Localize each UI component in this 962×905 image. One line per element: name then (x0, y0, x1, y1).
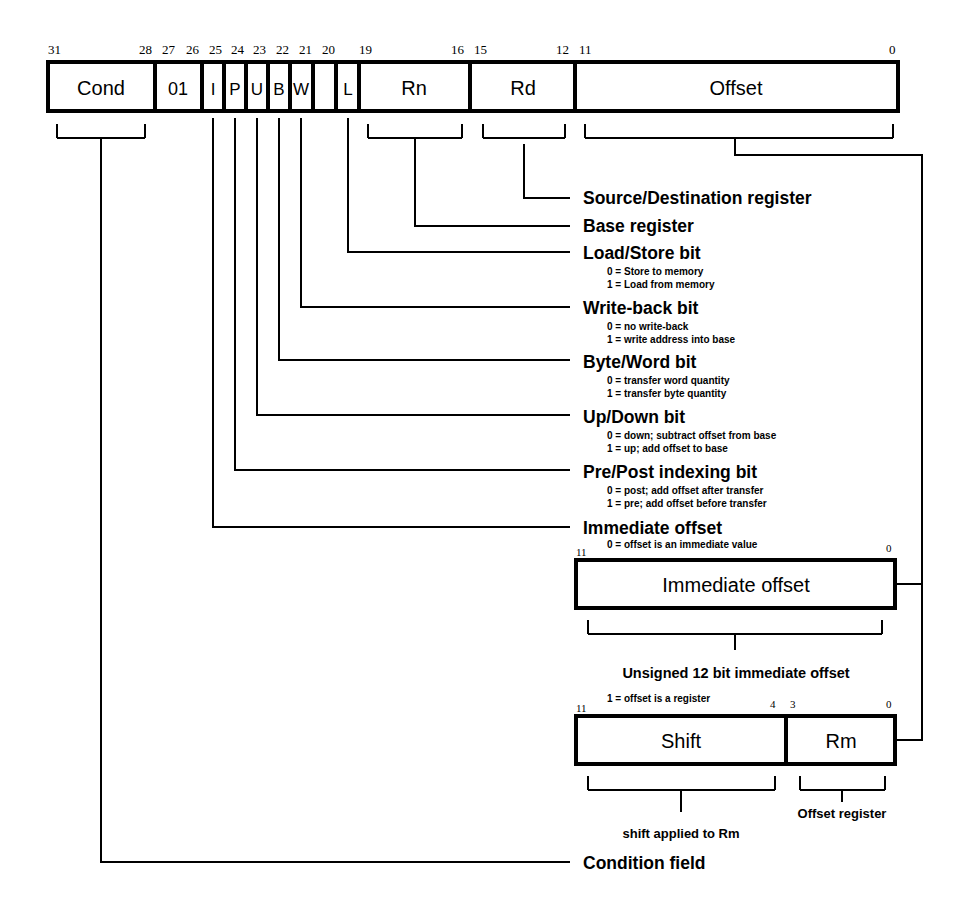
register-box-field-shift: Shift (661, 730, 701, 752)
bit-label-24: 24 (231, 42, 245, 57)
bit-label-25: 25 (209, 42, 222, 57)
immediate-box-caption: Unsigned 12 bit immediate offset (622, 665, 849, 681)
bit-label-19: 19 (359, 42, 372, 57)
annotation-write-back-bit-line-0: 0 = no write-back (607, 321, 689, 332)
field-l: L (343, 80, 352, 99)
annotation-pre-post-indexing-bit-title: Pre/Post indexing bit (583, 462, 757, 482)
bit-label-16: 16 (451, 42, 465, 57)
bit-label-23: 23 (253, 42, 266, 57)
annotation-up-down-bit-line-1: 1 = up; add offset to base (607, 443, 728, 454)
annotation-byte-word-bit-line-1: 1 = transfer byte quantity (607, 388, 727, 399)
annotation-pre-post-indexing-bit-line-0: 0 = post; add offset after transfer (607, 485, 764, 496)
field-u: U (251, 80, 263, 99)
immediate-box-bit-lo: 0 (886, 542, 892, 554)
field-offset: Offset (710, 77, 763, 99)
field-b: B (273, 80, 284, 99)
bit-label-11: 11 (579, 42, 592, 57)
field-w: W (293, 80, 309, 99)
condition-field-label: Condition field (583, 853, 705, 873)
register-box-note: 1 = offset is a register (607, 693, 710, 704)
register-box-bit-mid-lo: 3 (790, 698, 796, 710)
shift-caption: shift applied to Rm (623, 826, 740, 841)
annotation-immediate-offset-title: Immediate offset (583, 518, 722, 538)
register-box-bit-lo: 0 (886, 698, 892, 710)
bit-label-31: 31 (48, 42, 61, 57)
annotation-immediate-offset-line-0: 0 = offset is an immediate value (607, 539, 758, 550)
bit-label-12: 12 (556, 42, 569, 57)
annotation-write-back-bit-line-1: 1 = write address into base (607, 334, 736, 345)
annotation-load-store-bit-title: Load/Store bit (583, 243, 701, 263)
immediate-box-field-name: Immediate offset (662, 574, 810, 596)
bit-label-15: 15 (474, 42, 487, 57)
bit-label-21: 21 (299, 42, 312, 57)
annotation-load-store-bit-line-1: 1 = Load from memory (607, 279, 715, 290)
field-rd: Rd (510, 77, 536, 99)
annotation-source-destination-register-title: Source/Destination register (583, 188, 812, 208)
rm-caption: Offset register (798, 806, 887, 821)
bit-label-22: 22 (276, 42, 289, 57)
bit-label-28: 28 (139, 42, 152, 57)
annotation-pre-post-indexing-bit-line-1: 1 = pre; add offset before transfer (607, 498, 767, 509)
bit-label-26: 26 (186, 42, 200, 57)
register-box-bit-mid-hi: 4 (770, 698, 776, 710)
register-box-bit-hi: 11 (576, 702, 587, 714)
annotation-base-register-title: Base register (583, 216, 694, 236)
annotation-byte-word-bit-line-0: 0 = transfer word quantity (607, 375, 730, 386)
annotation-write-back-bit-title: Write-back bit (583, 298, 699, 318)
bit-label-20: 20 (322, 42, 335, 57)
immediate-box-bit-hi: 11 (576, 546, 587, 558)
bit-label-27: 27 (162, 42, 176, 57)
register-box-field-rm: Rm (825, 730, 856, 752)
field-01: 01 (168, 79, 188, 99)
diagram-text-layer: 31 28 27 26 25 24 23 22 21 20 19 16 15 1… (0, 0, 962, 905)
field-i: I (211, 80, 216, 99)
arm-instruction-format-diagram: 31 28 27 26 25 24 23 22 21 20 19 16 15 1… (0, 0, 962, 905)
field-cond: Cond (77, 77, 125, 99)
annotation-load-store-bit-line-0: 0 = Store to memory (607, 266, 704, 277)
annotation-byte-word-bit-title: Byte/Word bit (583, 352, 697, 372)
annotation-up-down-bit-line-0: 0 = down; subtract offset from base (607, 430, 777, 441)
field-rn: Rn (401, 77, 427, 99)
annotation-up-down-bit-title: Up/Down bit (583, 407, 685, 427)
bit-label-0: 0 (889, 42, 896, 57)
field-p: P (229, 80, 240, 99)
